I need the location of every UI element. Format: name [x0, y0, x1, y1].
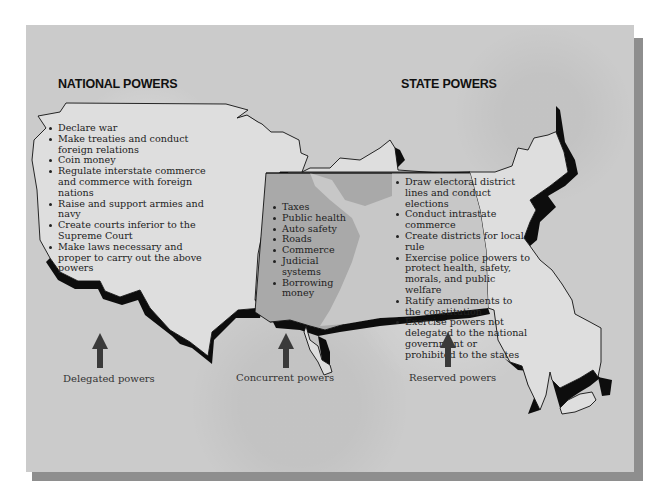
list-item: Borrowing money [272, 278, 352, 300]
list-item: Conduct intrastate commerce [395, 209, 530, 231]
list-item: Make laws necessary and proper to carry … [48, 242, 218, 274]
list-item: Regulate interstate commerce and commerc… [48, 166, 218, 198]
state-powers-heading: STATE POWERS [401, 77, 497, 91]
concurrent-powers-label: Concurrent powers [236, 372, 334, 383]
list-item: Create courts inferior to the Supreme Co… [48, 220, 218, 242]
concurrent-powers-list: Taxes Public health Auto safety Roads Co… [272, 202, 352, 299]
great-lakes-area [302, 140, 470, 173]
list-item: Create districts for local rule [395, 231, 530, 253]
national-powers-list: Declare war Make treaties and conduct fo… [48, 123, 218, 274]
list-item: Judicial systems [272, 256, 352, 278]
reserved-arrow-icon [440, 332, 456, 367]
list-item: Exercise police powers to protect health… [395, 253, 530, 296]
state-powers-list: Draw electoral district lines and conduc… [395, 177, 530, 361]
concurrent-arrow-icon [278, 333, 294, 368]
list-item: Exercise powers not delegated to the nat… [395, 317, 530, 360]
list-item: Draw electoral district lines and conduc… [395, 177, 530, 209]
list-item: Ratify amendments to the constitution [395, 296, 530, 318]
list-item: Raise and support armies and navy [48, 199, 218, 221]
list-item: Make treaties and conduct foreign relati… [48, 134, 218, 156]
reserved-powers-label: Reserved powers [409, 372, 496, 383]
national-powers-heading: NATIONAL POWERS [58, 77, 177, 91]
delegated-arrow-icon [92, 333, 108, 368]
delegated-powers-label: Delegated powers [63, 373, 155, 384]
list-item: Public health [272, 213, 352, 224]
